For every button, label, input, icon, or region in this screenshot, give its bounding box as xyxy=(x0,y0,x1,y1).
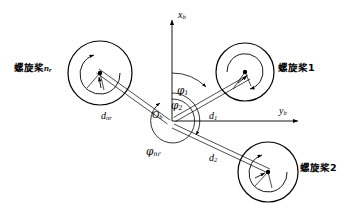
origin-label: Ob xyxy=(152,110,162,121)
rotor-geometry-figure: 螺旋桨nr 螺旋桨1 螺旋桨2 xb yb Ob φ1 φ2 φnr d1 d2… xyxy=(0,0,356,216)
rotor-2-graphic xyxy=(238,142,298,202)
d2-label: d2 xyxy=(209,153,217,164)
rotor-1-label: 螺旋桨1 xyxy=(278,63,315,73)
rotor-1-graphic xyxy=(216,43,274,101)
y-axis-label: yb xyxy=(279,106,287,117)
phi-nr-sub: nr xyxy=(153,150,160,158)
phi-2-label: φ2 xyxy=(171,100,183,112)
phi-1-label: φ1 xyxy=(177,85,189,97)
rotor-nr-label-cjk: 螺旋桨 xyxy=(14,62,44,73)
phi-2-sub: 2 xyxy=(178,104,182,112)
d1-label: d1 xyxy=(209,111,217,122)
d2-sub: 2 xyxy=(214,156,217,163)
rotor-nr-label: 螺旋桨nr xyxy=(14,63,52,74)
dnr-label: dnr xyxy=(101,111,112,122)
dnr-sub: nr xyxy=(106,114,112,121)
phi-1-sub: 1 xyxy=(184,89,188,97)
y-axis-label-sub: b xyxy=(283,109,286,116)
phi-nr-label: φnr xyxy=(146,146,161,158)
d1-sub: 1 xyxy=(214,114,217,121)
x-axis-label-sub: b xyxy=(182,13,185,20)
origin-label-sub: b xyxy=(159,113,162,120)
rotor-nr-label-r: r xyxy=(49,66,52,73)
x-axis-label: xb xyxy=(178,10,186,21)
rotor-nr-graphic xyxy=(68,41,132,105)
rotor-2-label: 螺旋桨2 xyxy=(300,163,337,173)
